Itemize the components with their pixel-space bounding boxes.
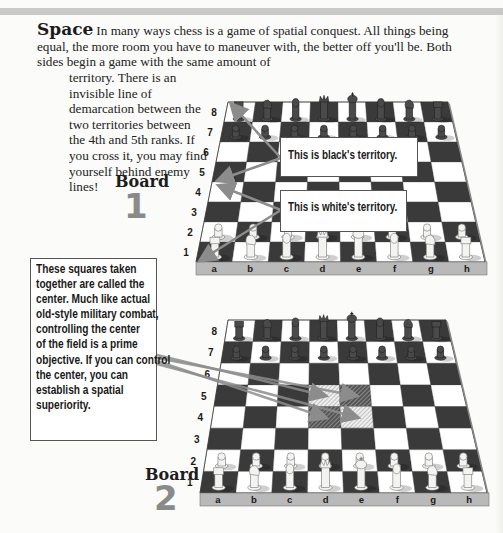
square-a6 — [216, 142, 250, 162]
file-label: b — [251, 494, 257, 505]
file-label: c — [287, 494, 292, 505]
square-h4 — [435, 182, 471, 202]
square-g3 — [405, 202, 441, 222]
square-g6 — [397, 363, 430, 385]
square-f3 — [374, 428, 410, 450]
file-label: d — [320, 263, 326, 274]
file-label: h — [466, 494, 472, 505]
file-strip — [200, 493, 489, 506]
square-h3 — [438, 202, 476, 222]
rank-label: 8 — [211, 326, 217, 337]
center-callout-line: superiority. — [36, 398, 134, 413]
square-a4 — [211, 407, 246, 429]
rank-label: 1 — [183, 247, 189, 258]
square-h5 — [431, 162, 466, 182]
file-label: g — [430, 494, 436, 505]
square-f4 — [372, 407, 407, 429]
file-label: b — [247, 263, 253, 274]
board1-board: abcdefgh87654321 — [183, 92, 487, 275]
rank-label: 8 — [211, 107, 217, 118]
rank-label: 4 — [195, 187, 201, 198]
square-h4 — [435, 407, 472, 429]
square-h6 — [427, 363, 462, 385]
center-callout-line: of the field is a prime — [36, 337, 134, 352]
board2-number: 2 — [154, 481, 178, 515]
rank-label: 7 — [208, 347, 214, 358]
file-label: a — [215, 494, 221, 505]
file-label: h — [464, 263, 470, 274]
square-g3 — [406, 428, 443, 450]
file-label: e — [356, 263, 361, 274]
center-callout-line: establish a spatial — [36, 383, 134, 398]
center-callout-line: the center, you can — [36, 368, 134, 383]
board1-number: 1 — [124, 189, 148, 223]
center-callout-line: objective. If you can control — [36, 353, 134, 368]
square-f5 — [370, 385, 403, 407]
board2-board: abcdefgh87654321 — [187, 312, 489, 506]
center-callout: These squares taken together are called … — [30, 258, 157, 441]
black-territory-text: This is black's territory. — [288, 148, 394, 162]
square-h5 — [431, 385, 467, 407]
square-b4 — [243, 407, 277, 429]
white-territory-callout: This is white's territory. — [280, 190, 407, 232]
rank-label: 5 — [199, 167, 205, 178]
square-c3 — [274, 428, 308, 450]
square-h3 — [439, 428, 477, 450]
file-label: a — [211, 263, 217, 274]
square-d3 — [308, 428, 342, 450]
center-callout-line: together are called the — [36, 277, 134, 292]
square-g5 — [400, 385, 435, 407]
rank-label: 7 — [207, 127, 213, 138]
file-strip — [196, 262, 487, 275]
square-a3 — [204, 202, 241, 222]
square-h6 — [428, 142, 462, 162]
file-label: e — [359, 494, 364, 505]
square-d6 — [309, 363, 339, 385]
center-callout-line: center. Much like actual — [36, 292, 134, 307]
rank-label: 2 — [187, 227, 193, 238]
rank-label: 6 — [203, 147, 209, 158]
square-e4 — [340, 407, 373, 429]
square-g4 — [403, 407, 439, 429]
rank-label: 3 — [194, 434, 200, 445]
square-b3 — [241, 428, 276, 450]
white-territory-text: This is white's territory. — [288, 200, 385, 214]
square-b4 — [241, 182, 276, 202]
square-e5 — [339, 385, 371, 407]
rank-label: 4 — [197, 412, 203, 423]
square-g4 — [403, 182, 438, 202]
square-e3 — [341, 428, 376, 450]
square-f6 — [368, 363, 400, 385]
square-a3 — [207, 428, 243, 450]
black-territory-callout: This is black's territory. — [280, 137, 418, 177]
square-e6 — [339, 363, 370, 385]
center-callout-line: These squares taken — [36, 262, 134, 277]
rank-label: 3 — [191, 207, 197, 218]
file-label: c — [284, 263, 289, 274]
center-callout-line: old-style military combat, — [36, 307, 134, 322]
file-label: g — [428, 263, 434, 274]
file-label: d — [323, 494, 329, 505]
rank-label: 5 — [201, 391, 207, 402]
center-callout-line: controlling the center — [36, 322, 134, 337]
